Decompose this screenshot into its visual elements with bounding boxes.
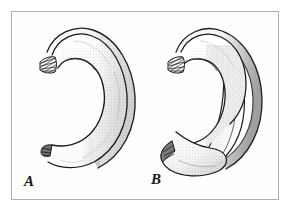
panel-b-drawing (161, 29, 262, 180)
panel-label-b: B (151, 172, 161, 187)
panel-a-proximal-cut-end (40, 57, 57, 73)
panel-a-distal-cut-end (41, 145, 52, 157)
panel-a-drawing (40, 28, 140, 170)
panel-label-a: A (24, 174, 34, 189)
figure-drawing-canvas (0, 0, 292, 214)
panel-b-proximal-cut-end (168, 57, 185, 73)
figure-root: A B (0, 0, 292, 214)
